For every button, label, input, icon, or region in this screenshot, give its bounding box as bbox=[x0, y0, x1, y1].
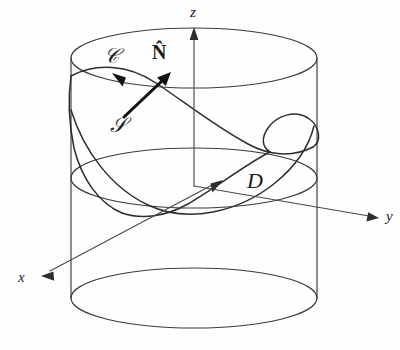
saddle-front-fold bbox=[71, 110, 314, 214]
x-axis-arrowhead bbox=[41, 272, 54, 281]
y-axis-label: y bbox=[386, 209, 393, 224]
surface-s-label: 𝒮 bbox=[110, 115, 126, 136]
diagram-canvas bbox=[0, 0, 400, 350]
y-axis-arrowhead bbox=[366, 212, 379, 221]
y-axis-group bbox=[194, 186, 379, 222]
cylinder-bottom-back-arc bbox=[71, 268, 317, 298]
z-axis-label: z bbox=[190, 5, 196, 20]
boundary-curve-left-closure bbox=[69, 76, 122, 213]
region-d-label: D bbox=[247, 170, 263, 192]
y-axis-line bbox=[194, 186, 369, 216]
x-axis-label: x bbox=[18, 270, 25, 285]
curve-orientation-group bbox=[112, 73, 126, 87]
cylinder-bottom-front-arc bbox=[71, 298, 317, 328]
curve-c-label: 𝒞 bbox=[104, 46, 119, 67]
normal-vector-label: N̂ bbox=[152, 42, 166, 62]
normal-vector-group bbox=[124, 72, 171, 117]
z-axis-arrowhead bbox=[190, 27, 199, 40]
figure-container: z y x 𝒞 N̂ 𝒮 D bbox=[0, 0, 400, 350]
curve-orientation-arrowhead bbox=[112, 73, 126, 87]
boundary-curve-right-lobe bbox=[263, 114, 318, 152]
